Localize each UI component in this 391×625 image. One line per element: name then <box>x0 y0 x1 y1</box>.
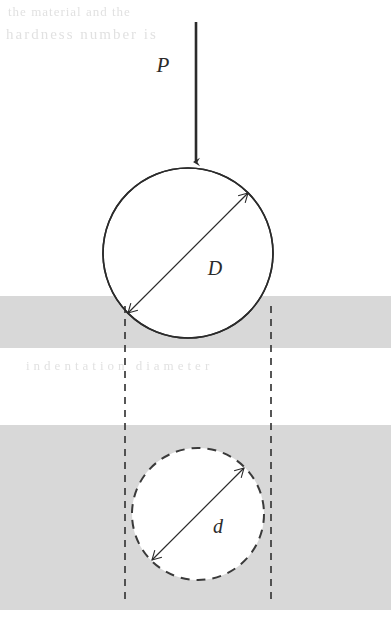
specimen-lower-band <box>0 425 391 610</box>
specimen-upper-band <box>0 168 391 348</box>
ball-diameter-label: D <box>207 257 223 279</box>
indent-diameter-label: d <box>213 515 224 537</box>
figure-canvas: the material and the hardness number is … <box>0 0 391 625</box>
indentation-diagram: P D d <box>0 0 391 625</box>
load-label: P <box>156 53 170 77</box>
